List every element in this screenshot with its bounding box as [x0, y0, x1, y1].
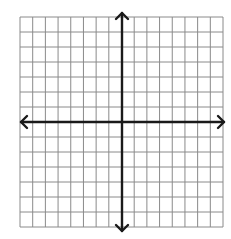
background	[0, 0, 231, 239]
coordinate-grid	[0, 0, 231, 239]
